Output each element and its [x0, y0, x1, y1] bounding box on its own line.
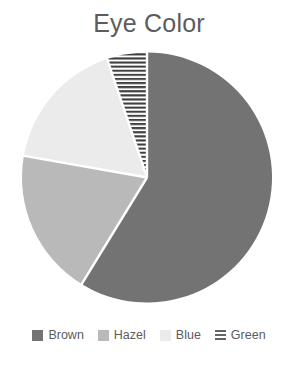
legend-item-green[interactable]: Green [215, 329, 266, 342]
legend-swatch-brown-icon [32, 330, 43, 341]
legend-item-hazel[interactable]: Hazel [98, 329, 146, 342]
chart-legend: BrownHazelBlueGreen [0, 329, 298, 342]
legend-swatch-blue-icon [160, 330, 171, 341]
legend-item-blue[interactable]: Blue [160, 329, 201, 342]
pie-chart-figure: Eye Color BrownHazelBlueGreen [0, 0, 298, 366]
legend-label: Blue [176, 329, 201, 342]
legend-label: Brown [48, 329, 83, 342]
legend-swatch-green-icon [215, 330, 226, 341]
pie-plot-area [0, 0, 298, 320]
legend-label: Green [231, 329, 266, 342]
pie-svg [0, 0, 298, 320]
legend-swatch-hazel-icon [98, 330, 109, 341]
legend-label: Hazel [114, 329, 146, 342]
legend-item-brown[interactable]: Brown [32, 329, 83, 342]
